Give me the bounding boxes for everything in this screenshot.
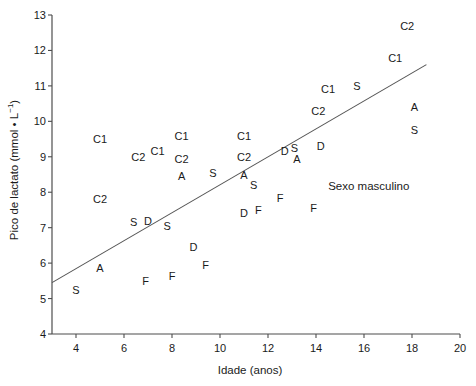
data-point-label-f: F xyxy=(142,275,149,286)
data-point-label-a: A xyxy=(293,153,300,164)
data-point-label-c1: C1 xyxy=(237,130,251,141)
data-point-label-a: A xyxy=(411,102,418,113)
data-point-label-f: F xyxy=(310,203,317,214)
y-tick-label: 13 xyxy=(24,10,46,21)
y-axis-title: Pico de lactato (mmol • L−1) xyxy=(7,100,20,240)
data-point-label-s: S xyxy=(353,80,360,91)
x-tick-label: 14 xyxy=(310,343,322,354)
y-tick-label: 11 xyxy=(24,80,46,91)
trend-line xyxy=(52,65,426,283)
x-tick-label: 4 xyxy=(73,343,79,354)
x-axis-title: Idade (anos) xyxy=(218,365,283,377)
data-point-label-s: S xyxy=(130,217,137,228)
data-point-label-a: A xyxy=(178,171,185,182)
data-point-label-c1: C1 xyxy=(388,52,402,63)
x-tick-label: 8 xyxy=(169,343,175,354)
data-point-label-d: D xyxy=(317,141,325,152)
x-tick-label: 18 xyxy=(406,343,418,354)
y-tick-label: 8 xyxy=(24,187,46,198)
data-point-label-c1: C1 xyxy=(93,134,107,145)
y-axis-title-exponent: −1 xyxy=(6,104,15,113)
data-point-label-c1: C1 xyxy=(175,130,189,141)
data-point-label-s: S xyxy=(164,220,171,231)
data-point-label-c2: C2 xyxy=(131,151,145,162)
data-point-label-s: S xyxy=(250,180,257,191)
y-tick-label: 5 xyxy=(24,293,46,304)
data-point-label-f: F xyxy=(169,270,176,281)
data-point-label-c1: C1 xyxy=(321,84,335,95)
data-point-label-c2: C2 xyxy=(237,151,251,162)
data-point-label-c1: C1 xyxy=(151,146,165,157)
series-annotation-sexo-masculino: Sexo masculino xyxy=(328,181,409,193)
y-tick-label: 10 xyxy=(24,116,46,127)
data-point-label-c2: C2 xyxy=(311,105,325,116)
data-point-label-f: F xyxy=(277,192,284,203)
data-point-label-c2: C2 xyxy=(93,194,107,205)
x-tick-label: 20 xyxy=(454,343,466,354)
data-point-label-d: D xyxy=(240,208,248,219)
regression-line xyxy=(52,65,426,283)
data-point-label-f: F xyxy=(255,204,262,215)
x-tick-label: 10 xyxy=(214,343,226,354)
data-point-label-f: F xyxy=(202,259,209,270)
data-point-label-s: S xyxy=(209,167,216,178)
y-axis-title-main: Pico de lactato (mmol • L xyxy=(8,113,20,240)
data-point-label-d: D xyxy=(144,215,152,226)
x-tick-label: 12 xyxy=(262,343,274,354)
data-point-label-a: A xyxy=(240,169,247,180)
x-tick-label: 6 xyxy=(121,343,127,354)
y-tick-label: 12 xyxy=(24,45,46,56)
data-point-label-c2: C2 xyxy=(175,153,189,164)
y-tick-label: 7 xyxy=(24,222,46,233)
x-tick-label: 16 xyxy=(358,343,370,354)
plot-area-svg xyxy=(0,0,476,386)
scatter-chart: 45678910111213 468101214161820 C1C2SASDC… xyxy=(0,0,476,386)
data-point-label-s: S xyxy=(72,284,79,295)
data-point-label-s: S xyxy=(411,125,418,136)
y-tick-label: 9 xyxy=(24,151,46,162)
y-tick-label: 6 xyxy=(24,258,46,269)
data-point-label-a: A xyxy=(96,263,103,274)
data-point-label-d: D xyxy=(190,242,198,253)
data-point-label-c2: C2 xyxy=(400,20,414,31)
y-tick-label: 4 xyxy=(24,329,46,340)
data-point-label-d: D xyxy=(281,146,289,157)
y-axis-title-tail: ) xyxy=(8,100,20,104)
